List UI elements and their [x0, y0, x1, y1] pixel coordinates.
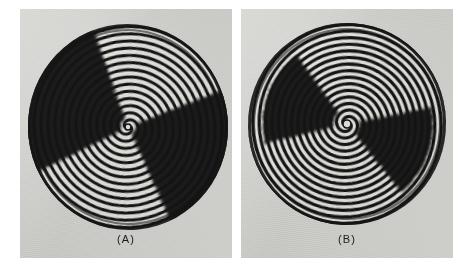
photo-panel-b — [241, 9, 453, 258]
panel-b-caption: (B) — [241, 233, 453, 245]
panel-a-caption: (A) — [20, 233, 232, 245]
figure-root: (A) (B) — [0, 0, 470, 271]
spiral-fringe-image-b — [241, 9, 453, 258]
photo-panel-a — [20, 9, 232, 258]
spiral-fringe-image-a — [20, 9, 232, 258]
